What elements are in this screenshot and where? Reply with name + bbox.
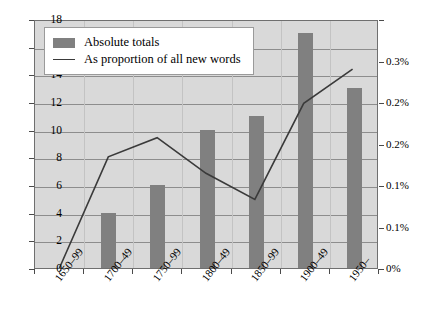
y-axis-left-tickmark xyxy=(29,158,34,159)
line-path xyxy=(59,69,352,268)
y-axis-right-tickmark xyxy=(379,228,384,229)
y-axis-right-tickmark xyxy=(379,269,384,270)
y-axis-right-tick-label: 0% xyxy=(386,263,426,274)
y-axis-right-tickmark xyxy=(379,103,384,104)
y-axis-left-tickmark xyxy=(29,131,34,132)
chart-container: 024681012141618 0%0.1%0.1%0.2%0.2%0.3% 1… xyxy=(0,0,444,315)
y-axis-left-tickmark xyxy=(29,103,34,104)
y-axis-right-tickmark xyxy=(379,62,384,63)
y-axis-left-tick-label: 18 xyxy=(36,14,62,26)
y-axis-left-tick-label: 4 xyxy=(36,208,62,220)
x-axis-tickmark xyxy=(280,269,281,274)
y-axis-right-tick-label: 0.2% xyxy=(386,97,426,108)
x-axis-tickmark xyxy=(83,269,84,274)
x-axis-tickmark xyxy=(132,269,133,274)
legend-swatch-icon xyxy=(53,38,75,48)
y-axis-right-tickmark xyxy=(379,186,384,187)
legend-line-icon xyxy=(53,59,75,60)
y-axis-left-tickmark xyxy=(29,20,34,21)
legend-item-proportion: As proportion of all new words xyxy=(53,51,241,68)
y-axis-left-tickmark xyxy=(29,48,34,49)
x-axis-tickmark xyxy=(34,269,35,274)
y-axis-left-tickmark xyxy=(29,241,34,242)
y-axis-left-tickmark xyxy=(29,186,34,187)
legend-label: As proportion of all new words xyxy=(84,53,241,66)
y-axis-right-tickmark xyxy=(379,145,384,146)
x-axis-tickmark xyxy=(231,269,232,274)
y-axis-right-tick-label: 0.2% xyxy=(386,139,426,150)
x-axis-tickmark xyxy=(329,269,330,274)
y-axis-left-tick-label: 8 xyxy=(36,152,62,164)
y-axis-left-tick-label: 6 xyxy=(36,180,62,192)
y-axis-left-tickmark xyxy=(29,214,34,215)
y-axis-right-tick-label: 0.1% xyxy=(386,222,426,233)
chart-legend: Absolute totals As proportion of all new… xyxy=(44,27,254,75)
x-axis-tickmark xyxy=(378,269,379,274)
y-axis-right-tickmark xyxy=(379,20,384,21)
y-axis-left-tickmark xyxy=(29,75,34,76)
x-axis-tickmark xyxy=(181,269,182,274)
y-axis-right-tick-label: 0.3% xyxy=(386,56,426,67)
y-axis-left-tick-label: 2 xyxy=(36,235,62,247)
y-axis-right-tick-label: 0.1% xyxy=(386,180,426,191)
legend-item-absolute-totals: Absolute totals xyxy=(53,34,241,51)
legend-label: Absolute totals xyxy=(84,36,159,49)
y-axis-left-tick-label: 10 xyxy=(36,125,62,137)
y-axis-left-tick-label: 12 xyxy=(36,97,62,109)
